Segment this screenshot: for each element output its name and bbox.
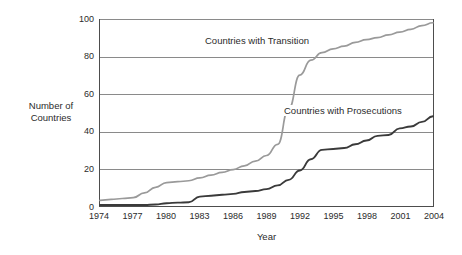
- y-axis-title-line-2: Countries: [12, 112, 90, 124]
- x-tick-label-2004: 2004: [414, 212, 454, 221]
- y-tick-label-80: 80: [60, 52, 94, 61]
- x-axis-tick-labels: 1974197719801983198619891992199519982001…: [99, 212, 434, 224]
- y-tick-label-100: 100: [60, 15, 94, 24]
- y-tick-label-20: 20: [60, 165, 94, 174]
- series-path-prosecutions: [100, 116, 433, 205]
- x-axis-title: Year: [99, 231, 434, 242]
- series-label-transition: Countries with Transition: [204, 35, 310, 46]
- y-tick-label-40: 40: [60, 127, 94, 136]
- y-axis-title-line-1: Number of: [12, 100, 90, 112]
- series-label-prosecutions: Countries with Prosecutions: [283, 105, 403, 116]
- y-tick-label-60: 60: [60, 90, 94, 99]
- chart-figure: 020406080100 Number of Countries Countri…: [0, 0, 462, 255]
- y-axis-title: Number of Countries: [12, 100, 90, 124]
